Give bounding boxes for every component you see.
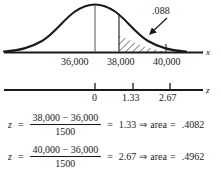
eq1-equals-2: = xyxy=(107,119,113,130)
eq2-area-word: area xyxy=(150,151,167,162)
z-score-equation-2: z = 40,000 − 36,000 1500 = 2.67 ⇒ area =… xyxy=(8,144,204,169)
eq1-numerator: 38,000 − 36,000 xyxy=(30,112,102,124)
eq2-result: 2.67 xyxy=(119,151,137,162)
eq1-implies-arrow: ⇒ xyxy=(139,119,147,130)
x-axis-label: x xyxy=(206,48,210,57)
z-tick-label-267: 2.67 xyxy=(159,93,177,103)
eq2-equals-1: = xyxy=(18,151,24,162)
eq1-denominator: 1500 xyxy=(52,125,78,137)
eq1-area-word: area xyxy=(150,119,167,130)
z-tick-label-133: 1.33 xyxy=(122,93,140,103)
eq2-equals-2: = xyxy=(107,151,113,162)
eq1-equals-1: = xyxy=(18,119,24,130)
eq2-fraction: 40,000 − 36,000 1500 xyxy=(30,144,102,169)
z-axis-label: z xyxy=(206,86,210,95)
x-tick-label-40000: 40,000 xyxy=(153,57,181,67)
shaded-area-label: .088 xyxy=(152,6,170,16)
z-score-equation-1: z = 38,000 − 36,000 1500 = 1.33 ⇒ area =… xyxy=(8,112,204,137)
eq2-variable: z xyxy=(8,151,12,162)
eq1-equals-3: = xyxy=(170,119,176,130)
eq2-denominator: 1500 xyxy=(52,157,78,169)
x-tick-label-38000: 38,000 xyxy=(107,57,135,67)
eq1-variable: z xyxy=(8,119,12,130)
eq2-implies-arrow: ⇒ xyxy=(139,151,147,162)
z-tick-label-0: 0 xyxy=(92,93,97,103)
eq1-result: 1.33 xyxy=(119,119,137,130)
eq2-area-value: .4962 xyxy=(182,151,205,162)
x-tick-label-36000: 36,000 xyxy=(61,57,89,67)
area-leader-arrow xyxy=(150,18,167,34)
eq2-equals-3: = xyxy=(170,151,176,162)
eq1-fraction: 38,000 − 36,000 1500 xyxy=(30,112,102,137)
eq1-area-value: .4082 xyxy=(182,119,205,130)
eq2-numerator: 40,000 − 36,000 xyxy=(30,144,102,156)
